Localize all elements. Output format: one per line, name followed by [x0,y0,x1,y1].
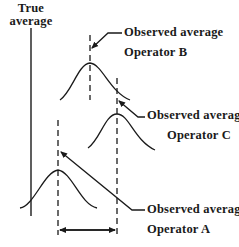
operator-c-distribution [88,78,155,235]
true-average-label-line2: average [4,15,58,28]
operator-a-observed-label: Observed average [147,203,239,216]
operator-b-curve [60,63,130,100]
operator-b-observed-label: Observed average [124,26,223,39]
operator-a-pointer [61,152,145,210]
operator-b-distribution [60,33,130,100]
operator-c-name-label: Operator C [167,129,231,142]
operator-c-pointer [119,101,145,117]
operator-b-pointer [92,33,122,48]
true-average-label: True average [4,2,58,28]
operator-a-name-label: Operator A [147,223,210,236]
operator-b-name-label: Operator B [124,46,187,59]
operator-c-observed-label: Observed average [147,109,239,122]
operator-a-distribution [20,120,145,235]
operator-bias-diagram: True average Observed average Operator B… [0,0,239,247]
operator-c-curve [88,114,155,150]
